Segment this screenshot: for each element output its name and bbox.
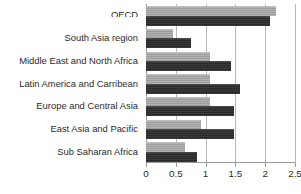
bar [146,61,231,71]
bar [146,38,191,48]
x-tick-mark [146,163,147,167]
category-axis-labels: OECDSouth Asia regionMiddle East and Nor… [0,0,142,163]
x-tick-mark [265,163,266,167]
bar-group [146,27,295,50]
bar-group [146,49,295,72]
x-tick-label: 0.5 [169,168,183,180]
x-tick-mark [235,163,236,167]
bar [146,142,185,152]
bar [146,52,210,62]
bar-group [146,72,295,95]
bar-chart: OECDSouth Asia regionMiddle East and Nor… [0,0,301,194]
bar [146,29,173,39]
category-label: OECD [0,10,138,17]
category-label: Latin America and Carribean [0,79,138,89]
x-tick-mark [295,163,296,167]
x-axis: 00.511.522.5 [146,163,295,194]
category-label: South Asia region [0,33,138,43]
bar [146,106,234,116]
bar [146,97,210,107]
bar-group [146,140,295,163]
bar [146,129,234,139]
x-tick-label: 2 [262,168,267,180]
x-tick-label: 1.5 [229,168,243,180]
gridline [295,4,296,163]
bar [146,152,197,162]
category-label: East Asia and Pacific [0,124,138,134]
bar-group [146,4,295,27]
x-tick-label: 0 [143,168,148,180]
x-tick-label: 2.5 [288,168,301,180]
x-tick-mark [206,163,207,167]
category-label: Europe and Central Asia [0,101,138,111]
bar [146,120,201,130]
bar [146,74,210,84]
category-label: Middle East and North Africa [0,56,138,66]
bar [146,16,270,26]
bar [146,6,276,16]
plot-area [146,4,295,163]
bar-group [146,95,295,118]
bar-group [146,118,295,141]
bar [146,84,240,94]
category-label: Sub Saharan Africa [0,147,138,157]
x-tick-mark [176,163,177,167]
x-tick-label: 1 [203,168,208,180]
